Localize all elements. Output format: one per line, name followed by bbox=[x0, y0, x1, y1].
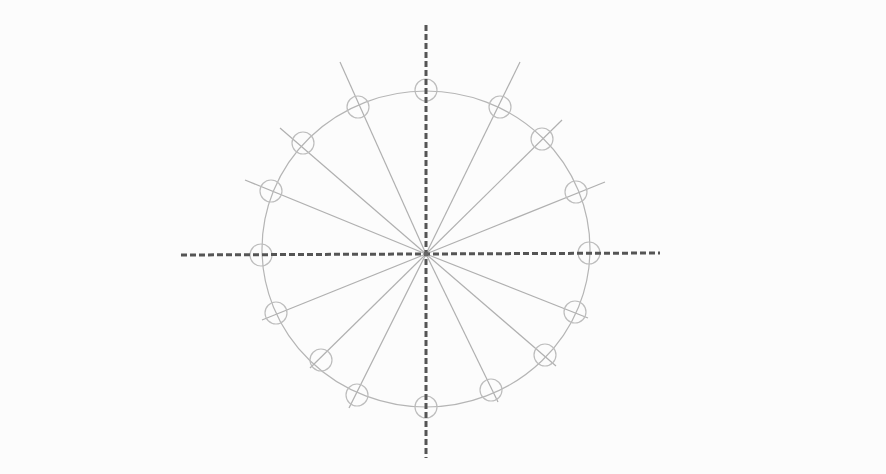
marker-circle bbox=[310, 349, 332, 371]
radial-spoke-diagram bbox=[0, 0, 886, 474]
horizontal-dashed-axis bbox=[181, 253, 660, 255]
spoke-line bbox=[280, 128, 426, 254]
spoke-line bbox=[426, 182, 605, 254]
marker-circle bbox=[534, 344, 556, 366]
spoke-line bbox=[426, 254, 588, 318]
center-point bbox=[424, 252, 429, 257]
marker-circle bbox=[347, 96, 369, 118]
spoke-line bbox=[340, 62, 426, 254]
spoke-line bbox=[426, 120, 562, 254]
spoke-line bbox=[245, 180, 426, 254]
marker-circle bbox=[564, 301, 586, 323]
marker-circle bbox=[292, 132, 314, 154]
spoke-line bbox=[426, 62, 520, 254]
marker-circle bbox=[489, 96, 511, 118]
spoke-line bbox=[426, 254, 556, 366]
diagram-canvas bbox=[0, 0, 886, 474]
